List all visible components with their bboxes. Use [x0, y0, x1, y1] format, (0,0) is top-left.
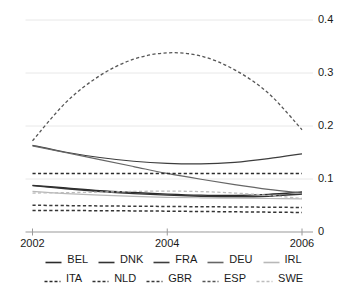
legend-entry-nld[interactable]: NLD	[92, 273, 136, 284]
series-lines	[33, 53, 303, 213]
legend-entry-esp[interactable]: ESP	[202, 273, 246, 284]
legend-entry-irl[interactable]: IRL	[263, 254, 302, 265]
y-tick-label-0: 0	[318, 225, 324, 237]
legend-swatch-nld-icon	[92, 273, 109, 284]
legend-label-esp: ESP	[224, 273, 246, 284]
x-tick-label-2006: 2006	[282, 237, 322, 249]
legend-swatch-dnk-icon	[98, 254, 115, 265]
legend-entry-fra[interactable]: FRA	[153, 254, 197, 265]
legend-entry-dnk[interactable]: DNK	[98, 254, 143, 265]
legend-row-2: ITANLDGBRESPSWE	[0, 269, 347, 288]
legend-label-dnk: DNK	[120, 254, 143, 265]
line-chart: 0.40.30.20.10 200220042006 BELDNKFRADEUI…	[0, 0, 347, 299]
legend-swatch-ita-icon	[44, 273, 61, 284]
legend-entry-deu[interactable]: DEU	[207, 254, 252, 265]
legend-label-deu: DEU	[229, 254, 252, 265]
legend-label-swe: SWE	[278, 273, 303, 284]
series-line-gbr	[33, 205, 303, 207]
legend-entry-ita[interactable]: ITA	[44, 273, 82, 284]
series-line-nld	[33, 211, 303, 213]
legend-label-gbr: GBR	[168, 273, 192, 284]
legend-swatch-fra-icon	[153, 254, 170, 265]
y-tick-label-0-1: 0.1	[318, 172, 333, 184]
axis-lines	[26, 229, 314, 236]
y-tick-label-0-4: 0.4	[318, 13, 333, 25]
legend-label-fra: FRA	[175, 254, 197, 265]
legend-label-ita: ITA	[66, 273, 82, 284]
legend-entry-bel[interactable]: BEL	[45, 254, 88, 265]
legend-swatch-deu-icon	[207, 254, 224, 265]
legend-label-nld: NLD	[114, 273, 136, 284]
gridlines	[26, 20, 314, 179]
x-tick-label-2002: 2002	[13, 237, 53, 249]
legend-swatch-swe-icon	[256, 273, 273, 284]
legend-entry-gbr[interactable]: GBR	[146, 273, 192, 284]
legend-swatch-esp-icon	[202, 273, 219, 284]
y-tick-label-0-3: 0.3	[318, 66, 333, 78]
chart-legend: BELDNKFRADEUIRLITANLDGBRESPSWE	[0, 250, 347, 288]
legend-row-1: BELDNKFRADEUIRL	[0, 250, 347, 269]
legend-swatch-bel-icon	[45, 254, 62, 265]
legend-label-irl: IRL	[285, 254, 302, 265]
legend-entry-swe[interactable]: SWE	[256, 273, 303, 284]
x-tick-label-2004: 2004	[147, 237, 187, 249]
legend-label-bel: BEL	[67, 254, 88, 265]
legend-swatch-gbr-icon	[146, 273, 163, 284]
y-tick-label-0-2: 0.2	[318, 119, 333, 131]
series-line-esp	[33, 53, 303, 141]
legend-swatch-irl-icon	[263, 254, 280, 265]
